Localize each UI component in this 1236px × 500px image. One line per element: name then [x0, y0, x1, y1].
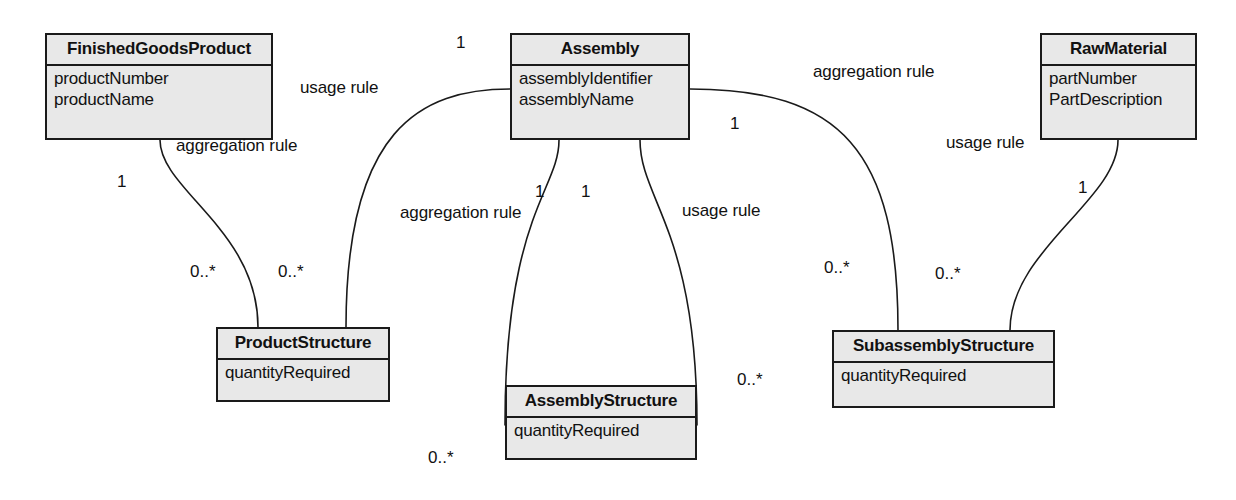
- class-box-assemblystructure[interactable]: AssemblyStructure quantityRequired: [505, 385, 697, 460]
- class-attributes-finishedgoodsproduct: productNumber productName: [47, 66, 271, 114]
- attribute-productnumber: productNumber: [54, 68, 265, 89]
- attribute-quantityrequired-assembly: quantityRequired: [514, 420, 689, 441]
- class-box-productstructure[interactable]: ProductStructure quantityRequired: [216, 327, 390, 402]
- relationship-label-usage-rule-rawmaterial: usage rule: [946, 133, 1024, 153]
- edge-assembly-assemblystructure-use: [640, 140, 697, 425]
- class-attributes-assembly: assemblyIdentifier assemblyName: [512, 66, 688, 114]
- attribute-assemblyidentifier: assemblyIdentifier: [519, 68, 682, 89]
- class-name-rawmaterial: RawMaterial: [1042, 35, 1195, 66]
- class-name-assembly: Assembly: [512, 35, 688, 66]
- edge-assembly-assemblystructure-agg: [505, 140, 559, 425]
- attribute-productname: productName: [54, 89, 265, 110]
- multiplicity-subassemblystructure-right: 0..*: [935, 264, 961, 284]
- attribute-assemblyname: assemblyName: [519, 89, 682, 110]
- multiplicity-finishedgoodsproduct: 1: [117, 172, 126, 192]
- multiplicity-productstructure-left: 0..*: [190, 262, 216, 282]
- attribute-quantityrequired-product: quantityRequired: [225, 362, 382, 383]
- edge-finishedgoods-productstructure: [160, 140, 258, 327]
- multiplicity-productstructure-right: 0..*: [278, 262, 304, 282]
- attribute-partdescription: PartDescription: [1049, 89, 1189, 110]
- class-box-assembly[interactable]: Assembly assemblyIdentifier assemblyName: [510, 33, 690, 140]
- class-name-productstructure: ProductStructure: [218, 329, 388, 360]
- class-name-assemblystructure: AssemblyStructure: [507, 387, 695, 418]
- class-box-subassemblystructure[interactable]: SubassemblyStructure quantityRequired: [832, 330, 1055, 408]
- class-attributes-assemblystructure: quantityRequired: [507, 418, 695, 444]
- class-box-finishedgoodsproduct[interactable]: FinishedGoodsProduct productNumber produ…: [45, 33, 273, 140]
- class-name-finishedgoodsproduct: FinishedGoodsProduct: [47, 35, 271, 66]
- multiplicity-assembly-mid-left: 1: [535, 182, 544, 202]
- relationship-label-usage-rule-product: usage rule: [300, 78, 378, 98]
- class-attributes-productstructure: quantityRequired: [218, 360, 388, 386]
- attribute-quantityrequired-subassembly: quantityRequired: [841, 365, 1047, 386]
- multiplicity-rawmaterial: 1: [1078, 178, 1087, 198]
- multiplicity-subassemblystructure-left: 0..*: [824, 258, 850, 278]
- class-attributes-rawmaterial: partNumber PartDescription: [1042, 66, 1195, 114]
- relationship-label-aggregation-rule-subassembly: aggregation rule: [813, 62, 934, 82]
- multiplicity-assembly-top-left: 1: [456, 33, 465, 53]
- uml-class-diagram: FinishedGoodsProduct productNumber produ…: [0, 0, 1236, 500]
- edge-rawmaterial-subassembly: [1010, 140, 1118, 330]
- relationship-label-aggregation-rule-assemblystructure: aggregation rule: [400, 203, 521, 223]
- relationship-label-aggregation-rule-product: aggregation rule: [176, 136, 297, 156]
- class-attributes-subassemblystructure: quantityRequired: [834, 363, 1053, 389]
- class-name-subassemblystructure: SubassemblyStructure: [834, 332, 1053, 363]
- multiplicity-assembly-right: 1: [730, 114, 739, 134]
- multiplicity-assembly-mid-right: 1: [581, 182, 590, 202]
- relationship-label-usage-rule-assemblystructure: usage rule: [682, 201, 760, 221]
- class-box-rawmaterial[interactable]: RawMaterial partNumber PartDescription: [1040, 33, 1197, 140]
- attribute-partnumber: partNumber: [1049, 68, 1189, 89]
- multiplicity-assemblystructure-bottom: 0..*: [428, 448, 454, 468]
- multiplicity-assemblystructure-right: 0..*: [737, 370, 763, 390]
